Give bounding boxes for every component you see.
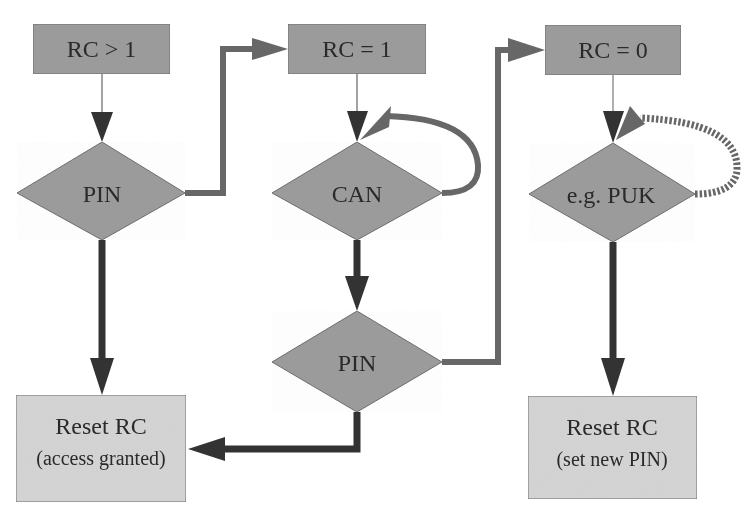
edge-rceq1-to-can [347,74,368,142]
edge-pin2-to-rceq0 [442,38,545,362]
decision-label: e.g. PUK [567,182,656,208]
result-box-reset-access-granted: Reset RC (access granted) [16,395,186,502]
edge-pin2-to-reset-access [188,412,357,461]
result-box-reset-set-new-pin: Reset RC (set new PIN) [528,396,697,499]
decision-pin-2: PIN [272,311,442,412]
pin-retry-counter-flowchart: RC > 1 RC = 1 RC = 0 PIN CAN PIN e.g. PU… [0,0,744,516]
state-label: RC = 0 [578,37,648,63]
decision-pin-1: PIN [17,142,185,240]
decision-label: PIN [338,350,377,376]
decision-can: CAN [272,142,442,240]
edge-rcgt1-to-pin1 [91,74,113,142]
result-subtitle: (access granted) [36,447,165,470]
decision-puk: e.g. PUK [529,143,695,242]
state-label: RC = 1 [322,36,392,62]
edge-puk-to-reset-newpin [601,242,625,396]
edge-pin1-to-rceq1 [185,38,288,193]
result-title: Reset RC [566,414,657,440]
state-box-rc-eq-1: RC = 1 [288,24,426,74]
decision-label: CAN [332,181,383,207]
state-box-rc-gt-1: RC > 1 [33,24,170,74]
decision-label: PIN [83,181,122,207]
edge-pin1-to-reset-access [90,240,114,395]
result-subtitle: (set new PIN) [556,448,667,471]
edge-can-to-pin2 [345,240,369,311]
state-box-rc-eq-0: RC = 0 [545,25,681,75]
state-label: RC > 1 [67,36,137,62]
result-title: Reset RC [55,413,146,439]
